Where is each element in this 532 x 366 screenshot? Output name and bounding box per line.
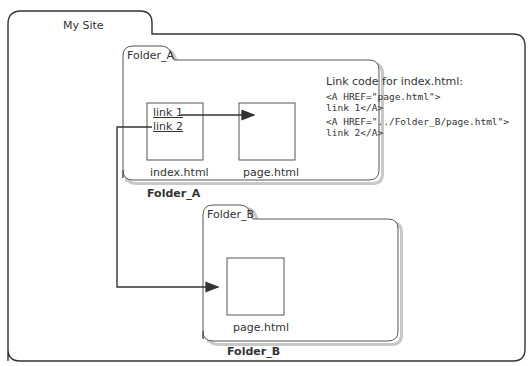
link-1[interactable]: link 1 [153, 106, 183, 119]
folder-b-tab-label: Folder_B [207, 208, 254, 221]
folder-a-page-html-label: page.html [243, 166, 299, 179]
folder-a-page-html-box [239, 103, 295, 160]
index-html-label: index.html [150, 166, 209, 179]
code-line-2: link 1</A> [326, 102, 383, 113]
link-2[interactable]: link 2 [153, 120, 183, 133]
code-line-1: <A HREF="page.html"> [326, 91, 440, 102]
code-note-title: Link code for index.html: [326, 75, 463, 88]
folder-b-page-html-label: page.html [233, 321, 289, 334]
folder-a-tab-label: Folder_A [127, 49, 174, 62]
code-line-4: link 2</A> [326, 127, 383, 138]
folder-b-caption: Folder_B [227, 345, 280, 358]
my-site-label: My Site [63, 19, 104, 32]
diagram-canvas [0, 0, 532, 366]
code-line-3: <A HREF="../Folder_B/page.html"> [326, 116, 509, 127]
folder-b-page-html-box [227, 258, 284, 315]
folder-a-caption: Folder_A [147, 187, 200, 200]
